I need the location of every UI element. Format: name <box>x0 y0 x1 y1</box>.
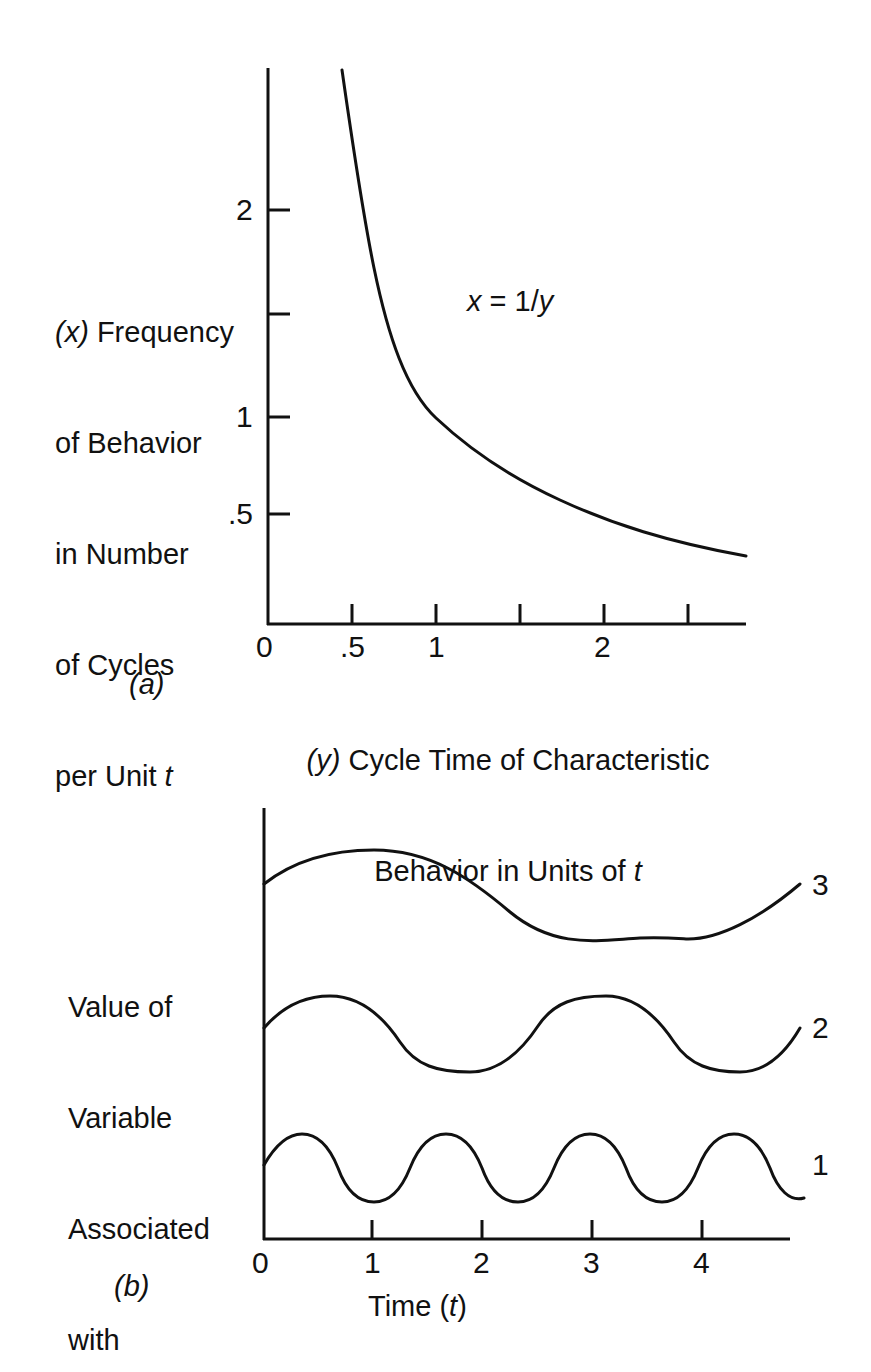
panel-a-xtick-0: 0 <box>256 632 273 662</box>
panel-a-xtick-point5: .5 <box>340 632 365 662</box>
panel-b-xtick-2: 2 <box>473 1248 490 1278</box>
panel-b-y-axis-label: Value of Variable Associated with Charac… <box>68 915 245 1372</box>
panel-b-curve-3 <box>264 850 800 941</box>
panel-a-id-label: (a) <box>129 668 164 701</box>
panel-a-y-axis-label-line-1: (x) Frequency <box>55 314 234 351</box>
panel-a-y-axis-label-line-3: in Number <box>55 536 234 573</box>
panel-a-equation-annotation: x = 1/y <box>467 285 553 318</box>
panel-b-xtick-4: 4 <box>693 1248 710 1278</box>
panel-a-y-axis-label-line-2: of Behavior <box>55 425 234 462</box>
panel-b-curve-1 <box>264 1134 804 1202</box>
panel-b-y-axis-label-line-3: Associated <box>68 1211 245 1248</box>
panel-a-y-ticks <box>268 210 290 514</box>
panel-a-xtick-1: 1 <box>428 632 445 662</box>
panel-a-xtick-2: 2 <box>594 632 611 662</box>
panel-a-ytick-2: 2 <box>236 195 253 225</box>
panel-b-xtick-1: 1 <box>364 1248 381 1278</box>
panel-a-x-ticks <box>352 604 688 624</box>
panel-b-x-axis-caption: Time (t) <box>368 1288 467 1325</box>
panel-b-y-axis-label-line-2: Variable <box>68 1100 245 1137</box>
panel-b-curve-2 <box>264 996 800 1072</box>
panel-a-y-axis-label-line-5: per Unit t <box>55 758 234 795</box>
panel-a-ytick-1: 1 <box>236 402 253 432</box>
panel-a-x-axis-caption-line-1: (y) Cycle Time of Characteristic <box>268 742 748 779</box>
panel-b-id-label: (b) <box>114 1270 149 1303</box>
panel-b-xtick-3: 3 <box>583 1248 600 1278</box>
panel-b-y-axis-label-line-4: with <box>68 1322 245 1359</box>
panel-b-curve-label-2: 2 <box>812 1011 829 1045</box>
panel-b-x-ticks <box>372 1220 702 1239</box>
panel-a-y-axis-label: (x) Frequency of Behavior in Number of C… <box>55 240 234 869</box>
figure-root: 2 1 .5 0 .5 1 2 (x) Frequency of Behavio… <box>0 0 871 1372</box>
panel-b-xtick-0: 0 <box>252 1248 269 1278</box>
panel-b-curve-label-1: 1 <box>812 1148 829 1182</box>
panel-b-y-axis-label-line-1: Value of <box>68 989 245 1026</box>
panel-b-curve-label-3: 3 <box>812 868 829 902</box>
